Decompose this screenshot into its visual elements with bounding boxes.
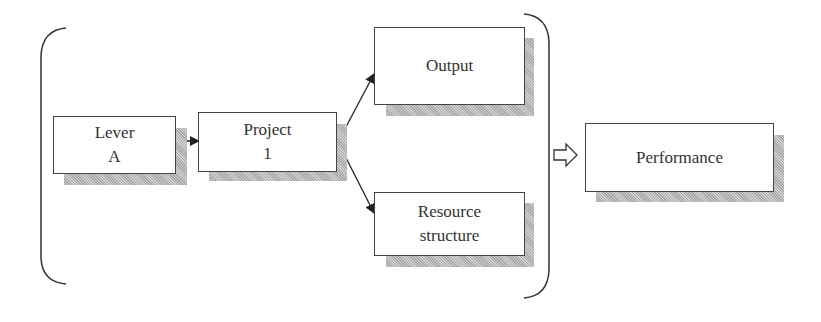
node-label-line: 1: [263, 142, 272, 166]
node-lever-a: Lever A: [53, 116, 176, 174]
node-label-line: A: [108, 145, 120, 169]
node-label-line: Performance: [636, 146, 723, 170]
node-label-line: structure: [420, 224, 479, 248]
node-performance: Performance: [585, 123, 774, 192]
node-label-line: Project: [243, 118, 291, 142]
hollow-arrow-icon: [554, 144, 577, 166]
node-project-1: Project 1: [198, 112, 337, 172]
node-label-line: Lever: [95, 121, 135, 145]
node-output: Output: [374, 27, 525, 105]
node-resource-structure: Resource structure: [374, 192, 525, 256]
node-label-line: Output: [426, 54, 473, 78]
node-label-line: Resource: [418, 200, 481, 224]
